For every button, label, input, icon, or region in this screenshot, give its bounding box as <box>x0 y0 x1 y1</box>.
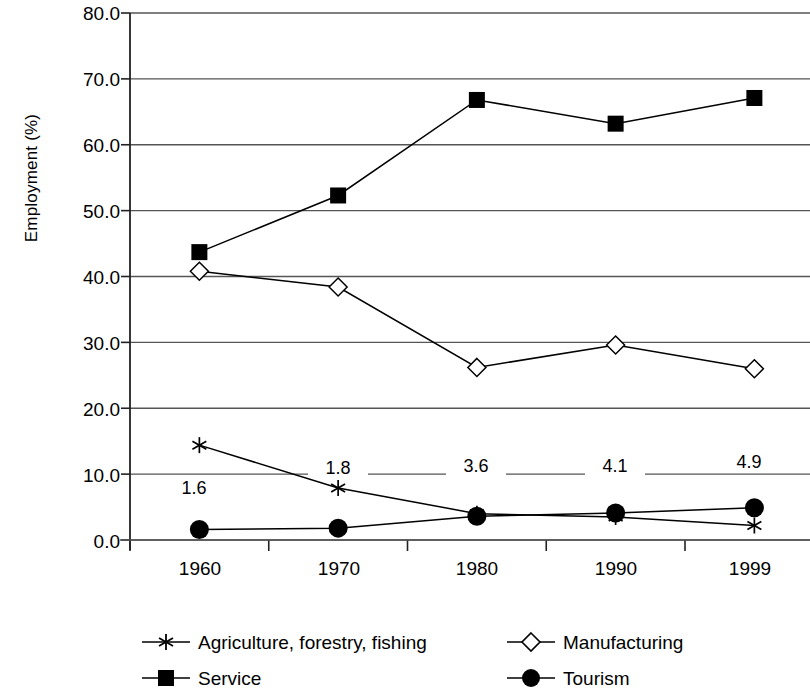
legend-label-service: Service <box>198 666 261 692</box>
data-label-tourism-1960: 1.6 <box>164 478 224 498</box>
data-label-tourism-1980: 3.6 <box>446 456 506 476</box>
x-tick-1999: 1999 <box>705 558 795 580</box>
legend-swatch-agriculture <box>140 628 192 656</box>
legend-label-agriculture: Agriculture, forestry, fishing <box>198 630 427 656</box>
legend-label-tourism: Tourism <box>563 666 630 692</box>
legend: Agriculture, forestry, fishing Manufactu… <box>0 620 810 696</box>
legend-swatch-manufacturing <box>505 628 557 656</box>
data-label-tourism-1970: 1.8 <box>308 458 368 478</box>
legend-swatch-service <box>140 664 192 692</box>
x-tick-1990: 1990 <box>571 558 661 580</box>
employment-line-chart: Employment (%) 80.0 70.0 60.0 50.0 40.0 … <box>0 0 810 696</box>
legend-label-manufacturing: Manufacturing <box>563 630 683 656</box>
x-tick-1970: 1970 <box>294 558 384 580</box>
plot-area <box>0 0 810 600</box>
x-tick-1960: 1960 <box>155 558 245 580</box>
data-label-tourism-1999: 4.9 <box>719 452 779 472</box>
legend-swatch-tourism <box>505 664 557 692</box>
data-label-tourism-1990: 4.1 <box>585 456 645 476</box>
x-tick-1980: 1980 <box>432 558 522 580</box>
